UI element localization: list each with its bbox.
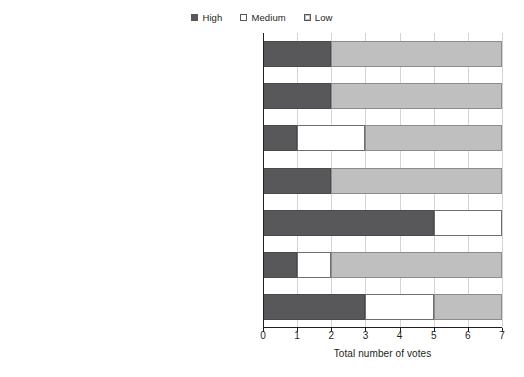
legend-item-low: Low <box>304 12 333 23</box>
legend-label-medium: Medium <box>251 12 285 23</box>
x-tick-label: 4 <box>388 330 412 341</box>
x-tick-label: 0 <box>251 330 275 341</box>
axis-frame <box>263 33 502 328</box>
legend-item-high: High <box>191 12 222 23</box>
chart-figure: High Medium Low DealerAutomotive insurer… <box>0 0 524 377</box>
legend-item-medium: Medium <box>240 12 285 23</box>
legend-label-high: High <box>202 12 222 23</box>
legend-swatch-low <box>304 14 311 21</box>
chart-legend: High Medium Low <box>0 8 524 26</box>
legend-label-low: Low <box>315 12 333 23</box>
x-tick-label: 6 <box>456 330 480 341</box>
plot-area <box>263 33 502 328</box>
x-tick-label: 2 <box>319 330 343 341</box>
x-tick-label: 3 <box>353 330 377 341</box>
x-tick-label: 1 <box>285 330 309 341</box>
x-tick-label: 5 <box>422 330 446 341</box>
legend-swatch-medium <box>240 14 247 21</box>
x-tick-label: 7 <box>490 330 514 341</box>
x-axis-title: Total number of votes <box>263 348 502 359</box>
legend-swatch-high <box>191 14 198 21</box>
gridline <box>502 33 503 328</box>
